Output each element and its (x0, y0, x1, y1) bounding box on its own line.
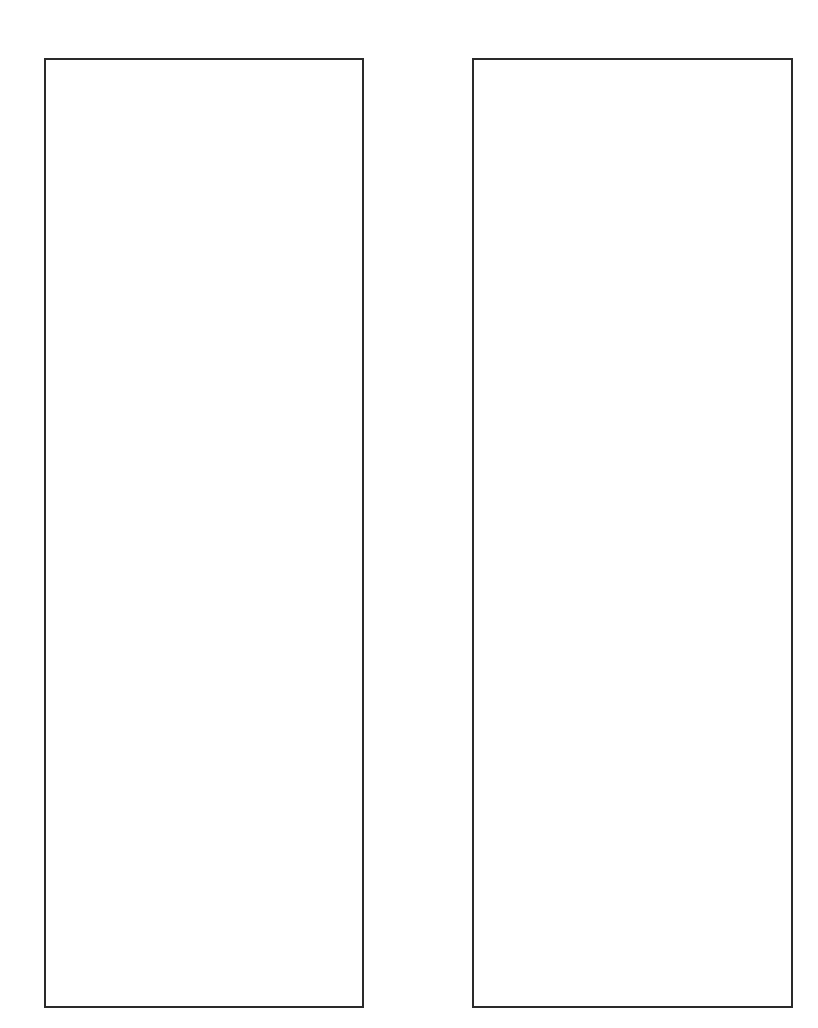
panel-b (0, 0, 818, 1028)
plot-frame (472, 58, 793, 1008)
